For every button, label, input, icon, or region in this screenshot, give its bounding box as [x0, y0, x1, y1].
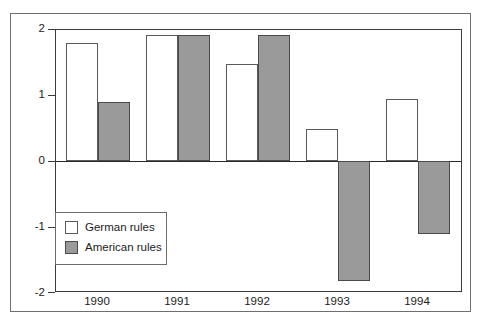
bar-american-1994[interactable] — [418, 161, 450, 234]
bar-german-1991[interactable] — [146, 35, 178, 161]
x-axis-label-1992: 1992 — [217, 296, 297, 308]
x-axis-label-1990: 1990 — [57, 296, 137, 308]
y-axis-tick-neg2 — [48, 292, 55, 293]
x-axis-label-1991: 1991 — [137, 296, 217, 308]
y-axis-label-neg1: -1 — [11, 221, 45, 233]
legend-label-american: American rules — [85, 242, 162, 254]
y-axis-tick-1 — [48, 95, 55, 96]
legend-label-german: German rules — [85, 222, 155, 234]
y-axis-label-2: 2 — [11, 23, 45, 35]
legend-entry-american: American rules — [65, 241, 162, 254]
bar-american-1992[interactable] — [258, 35, 290, 161]
y-axis-tick-0 — [48, 161, 55, 162]
legend-entry-german: German rules — [65, 221, 155, 234]
y-axis-label-0: 0 — [11, 155, 45, 167]
zero-baseline — [56, 161, 461, 162]
bar-chart-figure: 2 1 0 -1 -2 — [0, 0, 482, 322]
chart-legend: German rules American rules — [55, 212, 167, 265]
bar-german-1992[interactable] — [226, 64, 258, 161]
bar-american-1991[interactable] — [178, 35, 210, 161]
bar-german-1994[interactable] — [386, 99, 418, 161]
legend-swatch-american-icon — [65, 241, 78, 254]
bar-german-1990[interactable] — [66, 43, 98, 161]
y-axis-tick-2 — [48, 29, 55, 30]
y-axis-tick-neg1 — [48, 227, 55, 228]
bar-american-1993[interactable] — [338, 161, 370, 281]
bar-american-1990[interactable] — [98, 102, 130, 161]
x-axis-label-1993: 1993 — [297, 296, 377, 308]
y-axis-label-neg2: -2 — [11, 287, 45, 299]
y-axis-label-1: 1 — [11, 89, 45, 101]
legend-swatch-german-icon — [65, 221, 78, 234]
x-axis-label-1994: 1994 — [377, 296, 457, 308]
bar-german-1993[interactable] — [306, 129, 338, 161]
